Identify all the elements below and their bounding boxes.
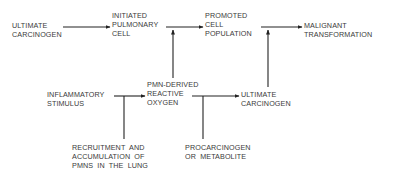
connector-layer <box>0 0 394 180</box>
